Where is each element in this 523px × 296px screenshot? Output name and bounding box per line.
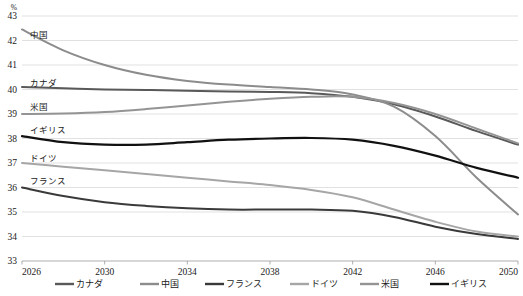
y-axis-tick-label: 43 [8, 11, 18, 21]
x-axis-tick-label: 2038 [261, 267, 280, 277]
y-axis-tick-label: 38 [8, 134, 18, 144]
inline-series-label-3: イギリス [30, 125, 66, 135]
y-axis-tick-label: 41 [8, 60, 18, 70]
y-axis-tick-label: 39 [8, 109, 18, 119]
series-line-5 [22, 136, 518, 178]
y-axis-tick-label: 33 [8, 256, 18, 266]
legend-label-5: イギリス [451, 279, 487, 289]
x-axis-tick-label: 2026 [22, 267, 41, 277]
x-axis-tick-label: 2042 [343, 267, 362, 277]
y-axis-tick-label: 35 [8, 207, 18, 217]
legend-label-1: 中国 [161, 278, 179, 289]
y-axis-tick-label: 34 [8, 232, 18, 242]
y-axis-tick-label: 40 [8, 85, 18, 95]
inline-series-label-5: フランス [30, 176, 66, 186]
legend-label-4: 米国 [381, 278, 399, 289]
inline-series-label-0: 中国 [30, 30, 48, 40]
series-line-1 [22, 29, 518, 214]
legend-label-2: フランス [226, 279, 262, 289]
inline-series-label-1: カナダ [30, 78, 57, 88]
series-line-2 [22, 188, 518, 239]
x-axis-tick-label: 2046 [426, 267, 445, 277]
legend-label-0: カナダ [76, 278, 103, 289]
x-axis-tick-label: 2030 [95, 267, 114, 277]
chart-canvas: 3334353637383940414243%20262030203420382… [0, 0, 523, 296]
line-chart: 3334353637383940414243%20262030203420382… [0, 0, 523, 296]
legend-label-3: ドイツ [311, 279, 338, 289]
y-axis-tick-label: 37 [8, 158, 18, 168]
y-axis-tick-label: 36 [8, 183, 18, 193]
x-axis-tick-label: 2050 [499, 267, 518, 277]
inline-series-label-4: ドイツ [30, 153, 57, 163]
x-axis-tick-label: 2034 [178, 267, 197, 277]
y-axis-tick-label: 42 [8, 36, 18, 46]
series-line-3 [22, 163, 518, 237]
inline-series-label-2: 米国 [30, 102, 48, 112]
y-axis-unit-label: % [11, 3, 17, 12]
